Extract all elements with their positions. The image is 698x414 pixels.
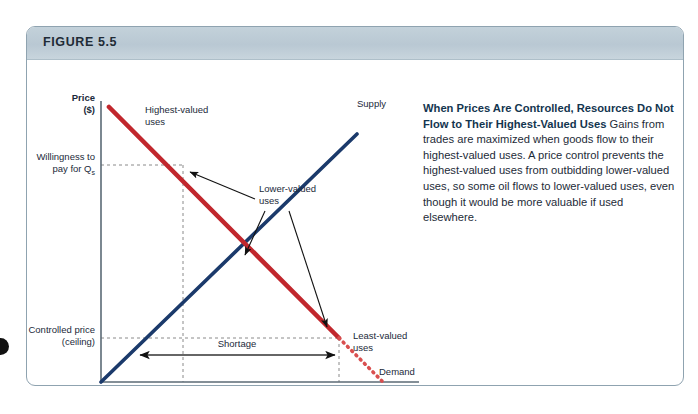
page-edge-marker	[0, 338, 9, 355]
figure-card: FIGURE 5.5	[26, 26, 684, 386]
caption-body: Gains from trades are maximized when goo…	[423, 118, 674, 224]
demand-series-label: Demand	[379, 366, 415, 377]
annotation-highest-valued-uses-line2: uses	[145, 116, 165, 127]
y-tick-willingness-line1: Willingness to	[36, 151, 95, 162]
lower-valued-arrow-2	[245, 211, 265, 255]
annotation-highest-valued-uses-line1: Highest-valued	[145, 104, 208, 115]
figure-caption: When Prices Are Controlled, Resources Do…	[423, 101, 675, 226]
supply-demand-chart: Price ($) Willingness to pay for Qs Cont…	[27, 59, 427, 386]
y-tick-ceiling-line1: Controlled price	[28, 324, 95, 335]
shortage-label: Shortage	[218, 338, 257, 349]
y-tick-ceiling-line2: (ceiling)	[62, 336, 95, 347]
y-tick-willingness-line2: pay for Qs	[52, 163, 95, 176]
y-axis-label-line1: Price	[72, 92, 95, 103]
annotation-least-valued-uses-line2: uses	[353, 342, 373, 353]
annotation-least-valued-uses-line1: Least-valued	[353, 330, 407, 341]
figure-header-bar: FIGURE 5.5	[27, 27, 683, 60]
supply-series-label: Supply	[357, 98, 386, 109]
demand-curve	[109, 107, 339, 338]
y-axis-label-line2: ($)	[83, 104, 95, 115]
figure-number-label: FIGURE 5.5	[43, 35, 117, 49]
annotation-lower-valued-uses-line2: uses	[259, 195, 279, 206]
annotation-lower-valued-uses-line1: Lower-valued	[259, 183, 316, 194]
chart-area: Price ($) Willingness to pay for Qs Cont…	[27, 59, 427, 386]
